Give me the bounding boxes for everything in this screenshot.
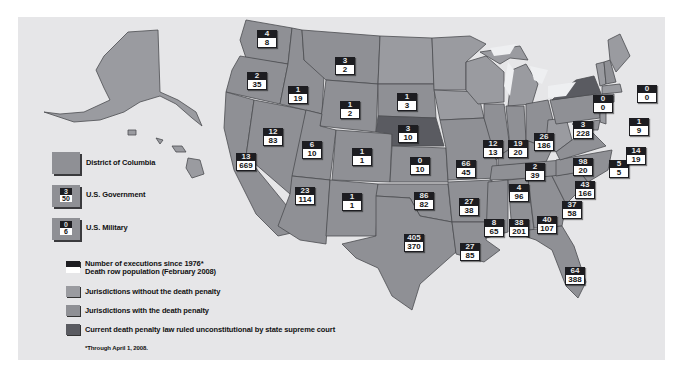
state-alaska <box>44 30 202 126</box>
legend-death-row-swatch <box>66 267 80 273</box>
state-north-dakota <box>378 36 434 84</box>
legend-with-label: Jurisdictions with the death penalty <box>85 306 209 315</box>
legend-us-military-swatch: 06 <box>52 218 80 240</box>
legend-us-military-box: 06 <box>60 221 72 235</box>
state-label-kentucky: 239 <box>525 163 545 181</box>
state-label-nevada: 1283 <box>263 128 283 146</box>
state-label-wyoming: 12 <box>340 101 360 119</box>
state-label-nebraska: 310 <box>398 125 418 143</box>
state-label-south-dakota: 13 <box>397 93 417 111</box>
legend-us-military-label: U.S. Military <box>86 223 128 232</box>
state-label-florida: 64388 <box>565 267 585 285</box>
legend-us-government-label: U.S. Government <box>86 190 145 199</box>
state-label-delaware: 1419 <box>626 147 646 165</box>
state-label-mississippi: 865 <box>484 219 504 237</box>
state-label-alabama: 38201 <box>509 219 529 237</box>
state-label-pennsylvania: 3228 <box>573 121 593 139</box>
legend-without-swatch <box>66 286 80 297</box>
state-label-washington: 48 <box>257 30 277 48</box>
state-label-new-mexico: 11 <box>342 193 362 211</box>
legend-dc-swatch <box>52 152 80 174</box>
state-label-virginia: 9820 <box>573 158 593 176</box>
state-label-ohio: 26186 <box>534 133 554 151</box>
state-label-arizona: 23114 <box>295 187 315 205</box>
legend-death-row-label: Death row population (February 2008) <box>85 267 216 276</box>
footnote: *Through April 1, 2008. <box>85 345 148 351</box>
state-label-oregon: 235 <box>247 72 267 90</box>
legend-unconstitutional-label: Current death penalty law ruled unconsti… <box>85 325 335 334</box>
state-label-texas: 405370 <box>404 234 424 252</box>
state-label-connecticut: 19 <box>629 118 649 136</box>
state-label-montana: 32 <box>335 57 355 75</box>
legend-dc-label: District of Columbia <box>86 158 155 167</box>
state-label-illinois: 1213 <box>483 140 503 158</box>
state-label-kansas: 010 <box>410 157 430 175</box>
state-label-tennessee: 496 <box>509 184 529 202</box>
state-label-georgia: 40107 <box>537 216 557 234</box>
state-label-north-carolina: 43166 <box>575 181 595 199</box>
state-label-colorado: 11 <box>352 148 372 166</box>
legend-us-government-box: 350 <box>60 188 72 202</box>
state-label-new-hampshire: 00 <box>637 85 657 103</box>
legend-us-government-swatch: 350 <box>52 185 80 207</box>
state-label-oklahoma: 8682 <box>414 192 434 210</box>
legend-with-swatch <box>66 305 80 316</box>
legend-without-label: Jurisdictions without the death penalty <box>85 287 220 296</box>
state-label-idaho: 119 <box>288 86 308 104</box>
state-label-louisiana: 2785 <box>460 243 480 261</box>
state-label-indiana: 1920 <box>508 140 528 158</box>
state-label-utah: 610 <box>302 141 322 159</box>
legend-unconstitutional-swatch <box>66 324 80 335</box>
state-label-missouri: 6645 <box>456 160 476 178</box>
state-label-new-york: 00 <box>593 95 613 113</box>
state-label-california: 13669 <box>236 153 256 171</box>
state-label-south-carolina: 3758 <box>562 201 582 219</box>
state-hawaii <box>128 130 204 178</box>
state-massachusetts <box>602 84 622 94</box>
state-label-arkansas: 2738 <box>459 198 479 216</box>
